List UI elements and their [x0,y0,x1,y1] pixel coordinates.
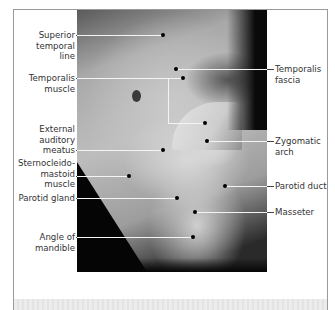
leader-line-temporalis-fascia [267,69,274,70]
photo-background-dark [77,162,147,272]
marker-dot-parotid-gland [175,196,179,200]
label-zygomatic-arch: Zygomatic arch [275,136,330,157]
marker-dot-external-auditory-meatus [161,148,165,152]
leader-line-parotid-duct [225,186,267,187]
leader-line-zygomatic-arch [267,141,274,142]
marker-dot-temporalis-muscle-2 [203,121,207,125]
photo-background-dark [227,10,267,130]
label-masseter: Masseter [275,207,330,218]
marker-dot-superior-temporal-line [161,33,165,37]
meatus-shadow [132,90,141,102]
leader-line-masseter [267,212,274,213]
marker-dot-parotid-duct [223,184,227,188]
photo-background-dark [77,258,267,272]
label-temporalis-fascia: Temporalis fascia [275,64,330,85]
leader-line-masseter [195,212,267,213]
leader-branch-temporalis-muscle [168,78,169,123]
leader-branch-temporalis-muscle [168,123,205,124]
leader-line-parotid-duct [267,186,274,187]
label-temporalis-muscle: Temporalis muscle [20,73,75,94]
caption-strip [14,299,327,310]
leader-line-angle-of-mandible [77,237,193,238]
marker-dot-sternocleidomastoid-muscle [127,174,131,178]
leader-line-sternocleidomastoid-muscle [77,176,129,177]
leader-line-superior-temporal-line [77,35,163,36]
marker-dot-temporalis-muscle [181,76,185,80]
label-external-auditory-meatus: External auditory meatus [20,124,75,156]
leader-line-parotid-gland [77,198,177,199]
label-superior-temporal-line: Superior temporal line [20,30,75,62]
marker-dot-angle-of-mandible [191,235,195,239]
leader-line-external-auditory-meatus [77,150,163,151]
label-parotid-gland: Parotid gland [10,193,75,204]
marker-dot-zygomatic-arch [205,139,209,143]
label-parotid-duct: Parotid duct [275,181,335,192]
label-sternocleidomastoid-muscle: Sternocleido- mastoid muscle [16,158,75,190]
leader-line-zygomatic-arch [207,141,267,142]
label-angle-of-mandible: Angle of mandible [20,232,75,253]
marker-dot-masseter [193,210,197,214]
marker-dot-temporalis-fascia [174,67,178,71]
leader-line-temporalis-fascia [176,69,267,70]
